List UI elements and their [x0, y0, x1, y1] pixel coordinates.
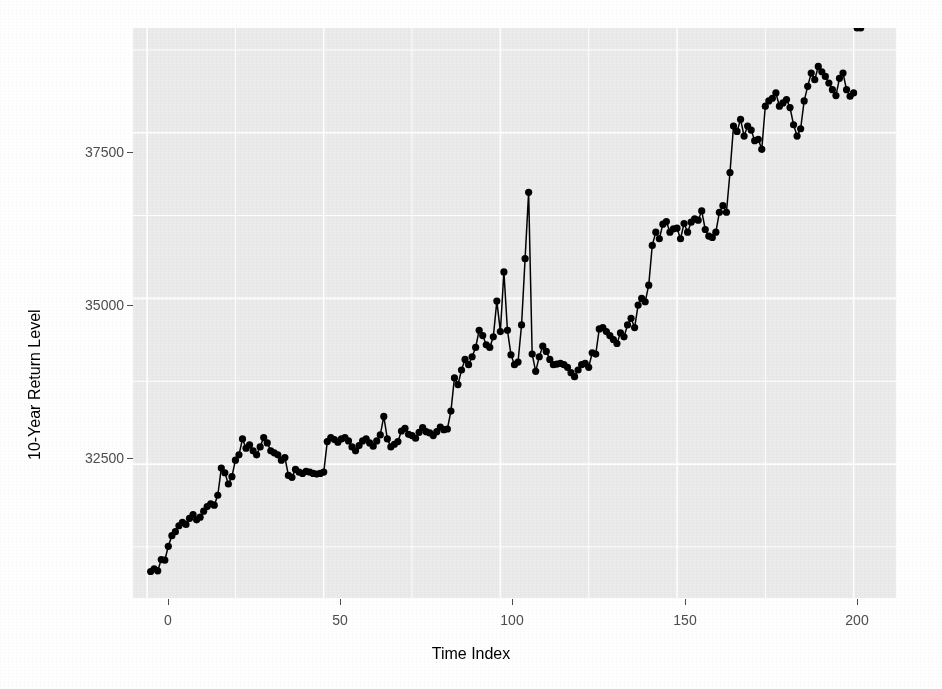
- data-point: [804, 83, 811, 90]
- data-point: [154, 567, 161, 574]
- data-point: [624, 321, 631, 328]
- data-point: [786, 104, 793, 111]
- data-point: [458, 366, 465, 373]
- data-point: [500, 268, 507, 275]
- data-point: [680, 220, 687, 227]
- data-point: [695, 217, 702, 224]
- data-point: [631, 324, 638, 331]
- data-point: [850, 89, 857, 96]
- data-point: [532, 368, 539, 375]
- data-point: [394, 438, 401, 445]
- data-point: [733, 128, 740, 135]
- data-point: [161, 557, 168, 564]
- data-point: [716, 209, 723, 216]
- x-tick-label-200: 200: [827, 612, 887, 628]
- panel-background: [133, 28, 896, 598]
- data-point: [514, 358, 521, 365]
- x-axis-title: Time Index: [0, 645, 942, 663]
- data-point: [522, 255, 529, 262]
- data-point: [592, 350, 599, 357]
- data-point: [225, 480, 232, 487]
- data-point: [486, 344, 493, 351]
- x-tick-mark-100: [512, 599, 513, 605]
- y-tick-label-35000: 35000: [62, 297, 124, 313]
- data-point: [518, 321, 525, 328]
- data-point: [712, 229, 719, 236]
- data-point: [281, 454, 288, 461]
- data-point: [783, 96, 790, 103]
- data-point: [649, 242, 656, 249]
- data-point: [822, 73, 829, 80]
- data-point: [808, 69, 815, 76]
- x-tick-mark-50: [340, 599, 341, 605]
- data-point: [656, 235, 663, 242]
- y-axis-title: 10-Year Return Level: [26, 309, 44, 460]
- data-point: [536, 353, 543, 360]
- data-point: [635, 301, 642, 308]
- data-point: [525, 189, 532, 196]
- data-point: [755, 136, 762, 143]
- data-point: [377, 431, 384, 438]
- data-point: [652, 229, 659, 236]
- data-point: [726, 169, 733, 176]
- plot-panel: [133, 28, 896, 598]
- data-point: [832, 92, 839, 99]
- data-point: [801, 97, 808, 104]
- data-point: [490, 333, 497, 340]
- data-point: [748, 126, 755, 133]
- return-level-line-chart: [133, 28, 896, 598]
- data-point: [465, 361, 472, 368]
- data-point: [253, 451, 260, 458]
- data-point: [571, 373, 578, 380]
- data-point: [645, 282, 652, 289]
- x-tick-label-0: 0: [138, 612, 198, 628]
- data-point: [825, 79, 832, 86]
- data-point: [702, 226, 709, 233]
- data-point: [497, 328, 504, 335]
- data-point: [684, 229, 691, 236]
- data-point: [772, 89, 779, 96]
- data-point: [741, 132, 748, 139]
- data-point: [620, 333, 627, 340]
- data-point: [257, 443, 264, 450]
- data-point: [384, 435, 391, 442]
- x-tick-mark-0: [168, 599, 169, 605]
- data-point: [239, 435, 246, 442]
- data-point: [454, 381, 461, 388]
- data-point: [444, 425, 451, 432]
- y-tick-label-37500: 37500: [62, 144, 124, 160]
- x-tick-label-50: 50: [310, 612, 370, 628]
- x-tick-mark-150: [685, 599, 686, 605]
- data-point: [221, 469, 228, 476]
- data-point: [493, 297, 500, 304]
- data-point: [843, 86, 850, 93]
- chart-figure: uoitaler eht ni ,noitubirtsid detcepxe e…: [0, 0, 942, 689]
- data-point: [673, 225, 680, 232]
- data-point: [211, 502, 218, 509]
- data-point: [663, 218, 670, 225]
- data-point: [543, 348, 550, 355]
- data-point: [719, 202, 726, 209]
- data-point: [165, 543, 172, 550]
- data-point: [214, 492, 221, 499]
- data-point: [507, 351, 514, 358]
- data-point: [504, 327, 511, 334]
- data-point: [613, 340, 620, 347]
- data-point: [235, 451, 242, 458]
- x-tick-label-100: 100: [482, 612, 542, 628]
- data-point: [758, 146, 765, 153]
- data-point: [737, 116, 744, 123]
- data-point: [797, 125, 804, 132]
- data-point: [839, 69, 846, 76]
- data-point: [585, 364, 592, 371]
- data-point: [698, 207, 705, 214]
- data-point: [642, 298, 649, 305]
- y-tick-label-32500: 32500: [62, 450, 124, 466]
- data-point: [790, 121, 797, 128]
- data-point: [793, 132, 800, 139]
- x-tick-label-150: 150: [655, 612, 715, 628]
- data-point: [380, 413, 387, 420]
- data-point: [451, 374, 458, 381]
- data-point: [627, 315, 634, 322]
- data-point: [677, 235, 684, 242]
